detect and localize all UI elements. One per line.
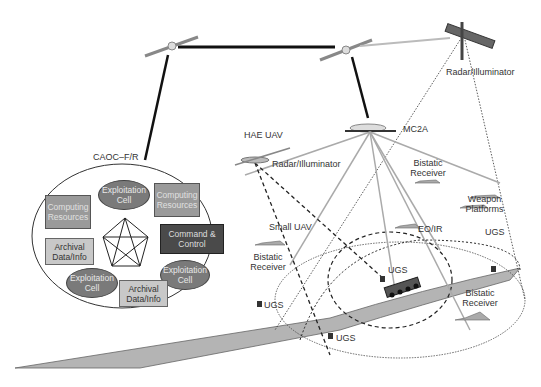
radar-satellite-label: Radar/Illuminator — [446, 67, 515, 77]
bistatic-top-label: BistaticReceiver — [408, 158, 448, 178]
bistatic-top-aircraft-icon — [415, 180, 440, 183]
eo-ir-label: EO/IR — [418, 224, 443, 234]
satellite-center-icon — [320, 40, 372, 60]
bistatic-left-aircraft-icon — [255, 241, 285, 245]
ugs-bottom-label: UGS — [336, 333, 356, 343]
mc2a-uplink — [352, 57, 368, 118]
exploitation-cell-left: Exploitation Cell — [66, 268, 118, 298]
diagram-canvas — [0, 0, 541, 387]
small-uav-label: Small UAV — [269, 222, 312, 232]
radar-beam-left — [275, 40, 460, 330]
computing-resources-right: Computing Resources — [154, 183, 200, 217]
ugs-center-label: UGS — [388, 265, 408, 275]
exploitation-cell-top: Exploitation Cell — [98, 180, 150, 210]
radar-beam-right — [465, 40, 525, 300]
mc2a-aircraft-icon — [345, 124, 396, 132]
caoc-title: CAOC–F/R — [93, 152, 139, 162]
archival-data-bottom: Archival Data/Info — [119, 280, 168, 307]
weapon-platforms-label: WeaponPlatforms — [462, 194, 507, 214]
computing-resources-left: Computing Resources — [45, 195, 91, 229]
hae-uav-label: HAE UAV — [244, 130, 283, 140]
hae-radar-label: Radar/Illuminator — [272, 159, 341, 169]
lightning-link — [360, 38, 450, 46]
radar-satellite-icon — [445, 22, 495, 60]
mc2a-label: MC2A — [403, 124, 428, 134]
ugs-right-label: UGS — [485, 227, 505, 237]
caoc-uplink — [145, 55, 168, 160]
bistatic-right-label: BistaticReceiver — [460, 288, 500, 308]
bistatic-right-aircraft-icon — [455, 312, 490, 320]
bistatic-left-label: BistaticReceiver — [248, 252, 288, 272]
command-control: Command & Control — [160, 224, 224, 254]
archival-data-left: Archival Data/Info — [45, 238, 94, 265]
ugs-left-label: UGS — [264, 300, 284, 310]
